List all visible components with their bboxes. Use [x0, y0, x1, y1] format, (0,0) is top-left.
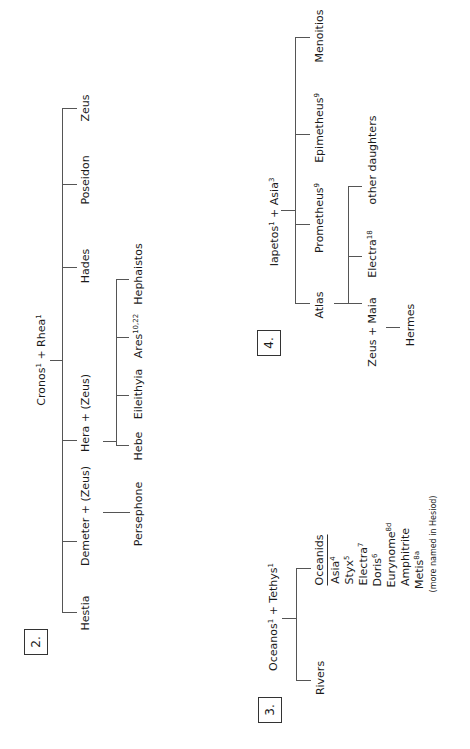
other-daughters-tick	[348, 186, 362, 187]
persephone-connector	[103, 512, 130, 513]
zeus-maia-label: Zeus + Maia	[367, 297, 379, 366]
oceanos-children-bracket	[296, 568, 297, 681]
menoitios-label: Menoitios	[314, 10, 326, 63]
iapetos-asia-parents: Iapetos1 + Asia3	[269, 178, 281, 267]
epimetheus-label: Epimetheus9	[314, 93, 326, 163]
iapetos-children-bracket	[295, 37, 296, 304]
oceanid-metis: Metis8a	[414, 551, 426, 589]
hera-children-bracket	[116, 279, 117, 445]
electra-tick	[348, 256, 362, 257]
section-4-number: 4.	[262, 337, 276, 348]
cronos-connector	[50, 360, 62, 361]
ares-label: Ares10,22	[133, 314, 145, 358]
hades-label: Hades	[80, 249, 92, 284]
section-2-number-box: 2.	[24, 629, 48, 655]
rivers-tick	[296, 680, 311, 681]
atlas-children-bracket	[348, 186, 349, 304]
hephaistos-label: Hephaistos	[133, 243, 145, 304]
rivers-label: Rivers	[315, 661, 327, 695]
hermes-connector	[386, 327, 400, 328]
hephaistos-tick	[116, 279, 129, 280]
atlas-children-connector	[334, 303, 348, 304]
zeus-tick	[62, 108, 77, 109]
ares-tick	[116, 337, 129, 338]
oceanids-note: (more named in Hesiod)	[428, 496, 440, 593]
hera-children-connector	[103, 441, 116, 442]
oceanid-amphitrite: Amphitrite	[400, 528, 412, 586]
cronos-rhea-parents: Cronos1 + Rhea1	[36, 314, 48, 405]
hestia-label: Hestia	[80, 596, 92, 631]
section-3-number: 3.	[263, 704, 277, 715]
oceanid-eurynome: Eurynome8d	[386, 522, 398, 587]
poseidon-label: Poseidon	[80, 155, 92, 204]
electra-label: Electra18	[367, 230, 379, 277]
section-4-number-box: 4.	[257, 330, 281, 356]
oceanid-asia: Asia4	[330, 556, 342, 584]
oceanids-header: Oceanids	[314, 535, 328, 586]
atlas-label: Atlas	[314, 291, 326, 318]
poseidon-tick	[62, 184, 77, 185]
hades-tick	[62, 267, 77, 268]
oceanos-connector	[282, 618, 296, 619]
eileithyia-label: Eileithyia	[133, 369, 145, 419]
section-3-number-box: 3.	[258, 697, 282, 723]
oceanid-electra: Electra7	[358, 543, 370, 586]
eileithyia-tick	[116, 395, 129, 396]
hestia-tick	[62, 612, 77, 613]
demeter-tick	[62, 541, 77, 542]
hebe-label: Hebe	[133, 432, 145, 461]
section-2-number: 2.	[29, 636, 43, 647]
prometheus-label: Prometheus9	[314, 183, 326, 253]
iapetos-connector	[281, 210, 295, 211]
demeter-label: Demeter + (Zeus)	[80, 466, 92, 566]
other-daughters-label: other daughters	[367, 116, 379, 205]
persephone-label: Persephone	[133, 482, 145, 546]
hermes-label: Hermes	[405, 304, 417, 347]
oceanid-doris: Doris6	[372, 554, 384, 587]
hebe-tick	[116, 445, 129, 446]
hera-label: Hera + (Zeus)	[80, 374, 92, 452]
maia-tick	[348, 303, 362, 304]
epimetheus-tick	[295, 134, 310, 135]
hera-tick	[62, 440, 77, 441]
zeus-label: Zeus	[80, 94, 92, 121]
atlas-tick	[295, 303, 310, 304]
oceanos-tethys-parents: Oceanos1 + Tethys1	[268, 563, 280, 671]
prometheus-tick	[295, 224, 310, 225]
oceanids-tick	[296, 568, 311, 569]
oceanid-styx: Styx5	[344, 556, 356, 585]
menoitios-tick	[295, 37, 310, 38]
